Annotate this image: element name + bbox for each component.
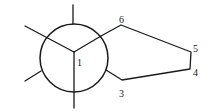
front-bond-upper-left bbox=[25, 26, 74, 52]
atom-label-3: 3 bbox=[119, 88, 124, 99]
atom-label-1: 1 bbox=[77, 57, 82, 68]
fused-ring-bonds bbox=[101, 25, 191, 80]
back-bond-lower-left bbox=[25, 71, 41, 81]
front-bond-upper-right bbox=[74, 36, 101, 52]
atom-label-5: 5 bbox=[193, 43, 198, 54]
atom-label-4: 4 bbox=[193, 67, 198, 78]
atom-label-6: 6 bbox=[119, 14, 124, 25]
newman-projection-diagram: 1 3 4 5 6 bbox=[0, 0, 210, 112]
